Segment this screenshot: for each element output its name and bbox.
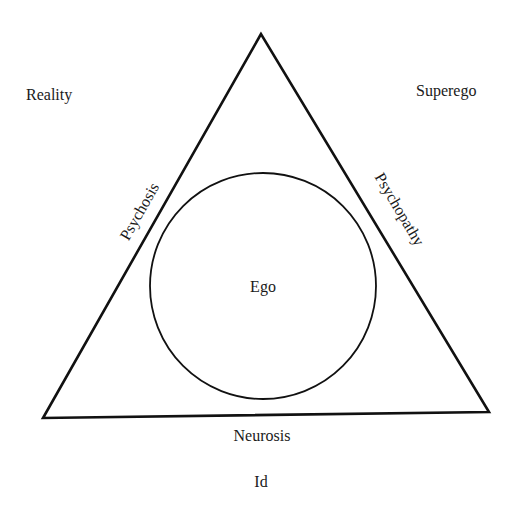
- label-reality: Reality: [26, 86, 72, 104]
- label-superego: Superego: [416, 82, 476, 100]
- label-psychosis: Psychosis: [116, 180, 163, 244]
- label-psychopathy: Psychopathy: [371, 170, 428, 250]
- label-neurosis: Neurosis: [234, 427, 291, 444]
- label-id: Id: [254, 473, 267, 490]
- label-ego: Ego: [250, 278, 276, 296]
- psyche-triangle-diagram: Reality Superego Ego Neurosis Id Psychos…: [0, 0, 520, 511]
